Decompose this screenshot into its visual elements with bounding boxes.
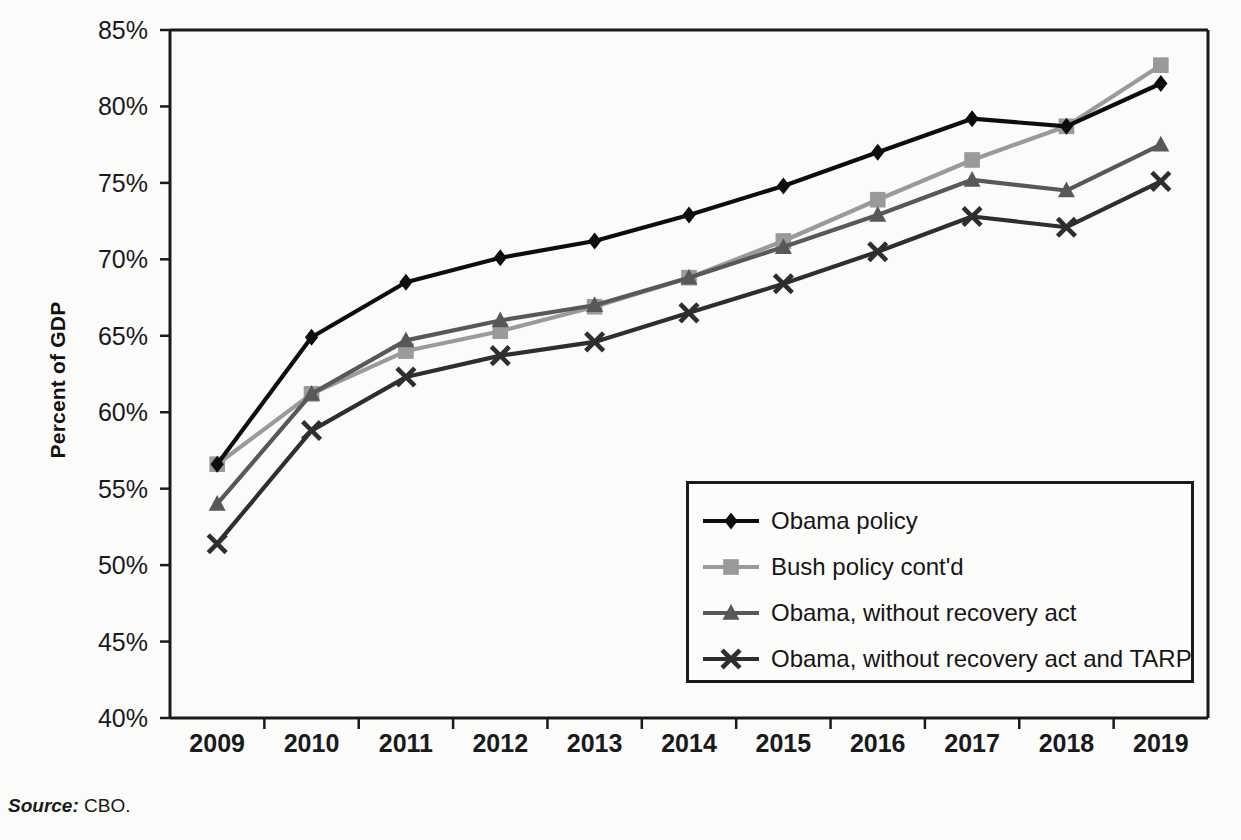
legend-item[interactable]: Bush policy cont'd [703, 544, 964, 590]
data-point-marker [965, 110, 978, 127]
legend-label: Obama, without recovery act and TARP [771, 645, 1192, 673]
triangle-marker [1152, 136, 1169, 152]
data-point-marker [723, 559, 739, 575]
legend-marker-glyph [703, 647, 759, 671]
diamond-marker [777, 177, 790, 194]
data-point-marker [871, 144, 884, 161]
diamond-marker [1154, 75, 1167, 92]
source-note: Source: CBO. [8, 795, 130, 817]
legend-marker-diamond-icon [703, 509, 759, 533]
legend-marker-glyph [703, 601, 759, 625]
data-point-marker [682, 206, 695, 223]
diamond-marker [494, 249, 507, 266]
diamond-marker [724, 513, 737, 530]
chart-figure: Percent of GDP 40%45%50%55%60%65%70%75%8… [0, 0, 1241, 840]
source-label: Source: [8, 795, 79, 816]
diamond-marker [399, 274, 412, 291]
data-point-marker [208, 535, 226, 553]
square-marker [964, 152, 980, 168]
series-line [217, 145, 1161, 504]
square-marker [1153, 57, 1169, 73]
data-point-marker [1154, 75, 1167, 92]
legend-marker-triangle-icon [703, 601, 759, 625]
legend-label: Bush policy cont'd [771, 553, 964, 581]
data-point-marker [1152, 136, 1169, 152]
data-point-marker [964, 152, 980, 168]
legend-marker-glyph [703, 509, 759, 533]
source-text: CBO. [84, 795, 130, 816]
data-point-marker [723, 604, 740, 620]
data-point-marker [870, 192, 886, 208]
triangle-marker [723, 604, 740, 620]
data-point-marker [1152, 172, 1170, 190]
data-point-marker [724, 513, 737, 530]
legend-marker-glyph [703, 555, 759, 579]
legend-label: Obama policy [771, 507, 918, 535]
legend-item[interactable]: Obama policy [703, 498, 918, 544]
plot-area [0, 0, 1241, 840]
data-point-marker [588, 232, 601, 249]
series-3 [209, 136, 1170, 511]
series-2 [209, 57, 1168, 472]
chart-legend: Obama policyBush policy cont'dObama, wit… [686, 481, 1194, 683]
data-point-marker [494, 249, 507, 266]
data-point-marker [722, 650, 740, 668]
legend-marker-cross-icon [703, 647, 759, 671]
legend-item[interactable]: Obama, without recovery act and TARP [703, 636, 1192, 682]
data-point-marker [303, 422, 321, 440]
data-point-marker [399, 274, 412, 291]
diamond-marker [588, 232, 601, 249]
diamond-marker [965, 110, 978, 127]
data-point-marker [1153, 57, 1169, 73]
diamond-marker [682, 206, 695, 223]
legend-item[interactable]: Obama, without recovery act [703, 590, 1076, 636]
legend-marker-square-icon [703, 555, 759, 579]
square-marker [723, 559, 739, 575]
data-point-marker [777, 177, 790, 194]
square-marker [870, 192, 886, 208]
legend-label: Obama, without recovery act [771, 599, 1076, 627]
diamond-marker [871, 144, 884, 161]
